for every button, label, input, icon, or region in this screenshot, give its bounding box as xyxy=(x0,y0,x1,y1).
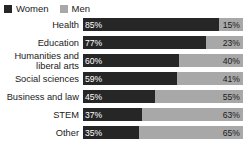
legend-item-men: Men xyxy=(60,4,90,14)
category-label: Humanities and liberal arts xyxy=(0,50,79,71)
category-label: Business and law xyxy=(0,92,79,102)
legend-item-women: Women xyxy=(4,4,49,14)
chart-row: Education 77% 23% xyxy=(0,36,245,49)
category-label: Social sciences xyxy=(0,74,79,84)
bar-track: 60% 40% xyxy=(83,54,243,67)
value-label-men: 41% xyxy=(223,74,240,83)
value-label-women: 35% xyxy=(85,128,102,137)
category-label: STEM xyxy=(0,110,79,120)
chart-row: Health 85% 15% xyxy=(0,18,245,31)
chart-row: Other 35% 65% xyxy=(0,126,245,139)
value-label-women: 45% xyxy=(85,92,102,101)
value-label-men: 40% xyxy=(223,56,240,65)
value-label-women: 85% xyxy=(85,20,102,29)
value-label-men: 23% xyxy=(223,38,240,47)
category-label: Health xyxy=(0,20,79,30)
value-label-men: 15% xyxy=(223,20,240,29)
value-label-women: 60% xyxy=(85,56,102,65)
category-label: Other xyxy=(0,128,79,138)
value-label-women: 59% xyxy=(85,74,102,83)
chart-row: Social sciences 59% 41% xyxy=(0,72,245,85)
legend-swatch-women-icon xyxy=(4,5,12,13)
chart-row: Humanities and liberal arts 60% 40% xyxy=(0,54,245,67)
bar-track: 35% 65% xyxy=(83,126,243,139)
bar-track: 45% 55% xyxy=(83,90,243,103)
value-label-men: 65% xyxy=(223,128,240,137)
value-label-men: 63% xyxy=(223,110,240,119)
legend-swatch-men-icon xyxy=(60,5,68,13)
chart-row: Business and law 45% 55% xyxy=(0,90,245,103)
chart-rows: Health 85% 15% Education 77% 23% Humanit… xyxy=(0,18,245,139)
legend-label-women: Women xyxy=(16,4,49,14)
bar-track: 77% 23% xyxy=(83,36,243,49)
bar-track: 37% 63% xyxy=(83,108,243,121)
value-label-women: 37% xyxy=(85,110,102,119)
chart-row: STEM 37% 63% xyxy=(0,108,245,121)
stacked-bar-chart: Women Men Health 85% 15% Education 77% 2… xyxy=(0,0,245,149)
value-label-men: 55% xyxy=(223,92,240,101)
chart-legend: Women Men xyxy=(4,2,90,15)
bar-track: 59% 41% xyxy=(83,72,243,85)
value-label-women: 77% xyxy=(85,38,102,47)
bar-segment-women xyxy=(83,18,219,31)
bar-track: 85% 15% xyxy=(83,18,243,31)
legend-label-men: Men xyxy=(72,4,90,14)
category-label: Education xyxy=(0,38,79,48)
